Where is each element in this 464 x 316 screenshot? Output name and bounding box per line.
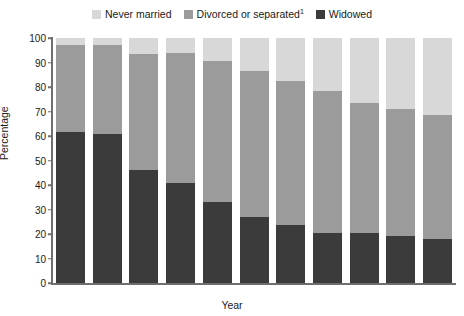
bar-segment bbox=[93, 134, 122, 283]
y-tick-mark bbox=[48, 111, 52, 113]
chart-legend: Never marriedDivorced or separated1Widow… bbox=[0, 9, 464, 20]
bar-segment bbox=[240, 71, 269, 217]
bar-segment bbox=[56, 132, 85, 283]
bar-segment bbox=[203, 61, 232, 202]
bar-segment bbox=[203, 202, 232, 283]
bar-segment bbox=[350, 38, 379, 103]
bar-segment bbox=[203, 38, 232, 61]
bar-group bbox=[276, 38, 305, 283]
legend-item-never_married: Never married bbox=[92, 9, 172, 20]
legend-swatch-divorced_or_separated bbox=[184, 10, 193, 19]
stacked-bar-chart: Never marriedDivorced or separated1Widow… bbox=[0, 0, 464, 316]
y-tick-mark bbox=[48, 62, 52, 64]
bar-segment bbox=[313, 91, 342, 233]
legend-item-widowed: Widowed bbox=[316, 9, 372, 20]
legend-footnote-marker: 1 bbox=[300, 8, 304, 15]
legend-label-widowed: Widowed bbox=[329, 9, 372, 20]
bar-segment bbox=[386, 38, 415, 109]
y-tick-mark bbox=[48, 86, 52, 88]
y-tick-mark bbox=[48, 184, 52, 186]
y-axis-title: Percentage bbox=[0, 106, 10, 160]
legend-swatch-never_married bbox=[92, 10, 101, 19]
legend-label-never_married: Never married bbox=[105, 9, 172, 20]
bar-segment bbox=[423, 115, 452, 239]
bar-group bbox=[56, 38, 85, 283]
bar-segment bbox=[56, 45, 85, 132]
bar-segment bbox=[276, 81, 305, 226]
y-tick-mark bbox=[48, 258, 52, 260]
bar-segment bbox=[166, 53, 195, 183]
bar-segment bbox=[276, 38, 305, 81]
bar-group bbox=[386, 38, 415, 283]
bar-segment bbox=[129, 38, 158, 54]
bar-segment bbox=[423, 38, 452, 115]
bar-group bbox=[240, 38, 269, 283]
bar-segment bbox=[240, 217, 269, 283]
bar-segment bbox=[166, 38, 195, 53]
bar-segment bbox=[166, 183, 195, 283]
plot-area: 0102030405060708090100196119661971197619… bbox=[52, 38, 456, 283]
bar-segment bbox=[240, 38, 269, 71]
x-axis-title: Year bbox=[0, 299, 464, 311]
y-tick-mark bbox=[48, 37, 52, 39]
bar-segment bbox=[386, 236, 415, 283]
bar-segment bbox=[129, 170, 158, 283]
bar-segment bbox=[56, 38, 85, 45]
x-axis-line bbox=[51, 283, 456, 285]
y-tick-mark bbox=[48, 233, 52, 235]
bar-group bbox=[350, 38, 379, 283]
bar-segment bbox=[350, 233, 379, 283]
bar-segment bbox=[93, 45, 122, 133]
bar-group bbox=[166, 38, 195, 283]
y-tick-mark bbox=[48, 282, 52, 284]
bar-segment bbox=[313, 38, 342, 91]
bar-segment bbox=[423, 239, 452, 283]
y-tick-mark bbox=[48, 135, 52, 137]
bar-segment bbox=[313, 233, 342, 283]
bar-group bbox=[313, 38, 342, 283]
bar-group bbox=[129, 38, 158, 283]
bar-group bbox=[203, 38, 232, 283]
bar-segment bbox=[129, 54, 158, 170]
legend-label-divorced_or_separated: Divorced or separated1 bbox=[197, 9, 304, 20]
y-tick-mark bbox=[48, 209, 52, 211]
bar-group bbox=[93, 38, 122, 283]
bar-group bbox=[423, 38, 452, 283]
bar-segment bbox=[276, 225, 305, 283]
bar-segment bbox=[350, 103, 379, 233]
bar-segment bbox=[93, 38, 122, 45]
legend-item-divorced_or_separated: Divorced or separated1 bbox=[184, 9, 304, 20]
legend-swatch-widowed bbox=[316, 10, 325, 19]
y-tick-mark bbox=[48, 160, 52, 162]
bar-segment bbox=[386, 109, 415, 236]
